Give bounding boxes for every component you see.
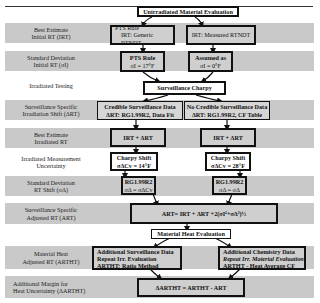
charpy-shift-left-box: Charpy Shift σΔCv = 14°F (110, 152, 158, 171)
box-text: Repeat Irr. Material Evaluation (223, 255, 304, 262)
additional-chemistry-box: Additional Chemistry Data Repeat Irr. Ma… (218, 246, 306, 270)
box-text: σΔ = σΔ (214, 186, 245, 194)
box-text: Additional Surveillance Data (97, 248, 180, 255)
box-text: IRT: Generic RTNDT (115, 31, 173, 46)
box-text: Surveillance Charpy (145, 84, 224, 92)
pts-rule-irt-box: PTS Rule IRT: Generic RTNDT (110, 25, 175, 45)
box-text: σΔ = σΔCv (123, 186, 154, 194)
diagram-title: Unirradiated Material Evaluation (139, 8, 237, 16)
box-text: ΔARTHT = ARTHT - ART (139, 284, 243, 292)
irt-plus-shift-right-box: IRT + ΔRT (200, 128, 256, 147)
rg199r2-right-box: RG1.99R2 σΔ = σΔ (212, 176, 247, 195)
art-formula-box: ART= IRT + ΔRT +2(σI²+σΔ²)½ (130, 203, 278, 224)
charpy-shift-right-box: Charpy Shift σΔCv = 28°F (205, 152, 251, 171)
irt-plus-shift-left-box: IRT + ΔRT (110, 128, 166, 147)
box-text: Additional Chemistry Data (223, 248, 304, 255)
box-text: ART= IRT + ΔRT +2(σI²+σΔ²)½ (132, 210, 276, 218)
box-text: RG1.99R2 (123, 178, 154, 186)
no-credible-data-box: No Credible Surveillance Data ΔRT: RG1.9… (184, 101, 270, 120)
box-text: σI = 0°F (190, 62, 231, 70)
delta-art-box: ΔARTHT = ARTHT - ART (137, 278, 245, 297)
pts-rule-sigma-box: PTS Rule σI = 17°F (120, 51, 165, 72)
box-text: σI = 17°F (122, 62, 163, 70)
box-text: PTS Rule (115, 24, 173, 32)
unirradiated-evaluation-box: Unirradiated Material Evaluation (137, 6, 239, 17)
box-text: σΔCv = 14°F (112, 162, 156, 170)
box-text: Charpy Shift (207, 154, 249, 162)
box-text: No Credible Surveillance Data (185, 103, 269, 111)
box-text: Credible Surveillance Data (98, 103, 182, 111)
assumed-sigma-box: Assumed as σI = 0°F (188, 51, 233, 72)
box-text: Repeat Irr. Evaluation (97, 255, 180, 262)
box-text: IRT: Measured RTNDT (188, 31, 254, 39)
box-text: σΔCv = 28°F (207, 162, 249, 170)
box-text: Material Heat Evaluation (152, 230, 230, 238)
box-text: Charpy Shift (112, 154, 156, 162)
box-text: ARTHT: Ratio Method (97, 262, 180, 269)
material-heat-evaluation-box: Material Heat Evaluation (151, 229, 231, 239)
box-text: IRT + ΔRT (202, 134, 254, 142)
box-text: ARTHT - Heat Average CF (223, 262, 304, 269)
box-text: RG1.99R2 (214, 178, 245, 186)
box-text: ΔRT: RG1.99R2, Data Fit (98, 111, 182, 119)
box-text: PTS Rule (122, 54, 163, 62)
measured-irt-box: IRT: Measured RTNDT (186, 25, 256, 45)
box-text: ΔRT: RG1.99R2, CF Table (185, 111, 269, 119)
credible-data-box: Credible Surveillance Data ΔRT: RG1.99R2… (97, 101, 183, 120)
rg199r2-left-box: RG1.99R2 σΔ = σΔCv (121, 176, 156, 195)
box-text: Assumed as (190, 54, 231, 62)
surveillance-charpy-box: Surveillance Charpy (143, 81, 226, 95)
box-text: IRT + ΔRT (112, 134, 164, 142)
additional-surveillance-box: Additional Surveillance Data Repeat Irr.… (92, 246, 182, 270)
